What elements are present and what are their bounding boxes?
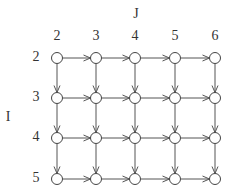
node-2-6 <box>210 53 221 64</box>
node-5-5 <box>170 174 181 185</box>
node-5-4 <box>130 174 141 185</box>
node-5-2 <box>52 174 63 185</box>
node-4-5 <box>170 133 181 144</box>
grid-graph <box>0 0 232 195</box>
node-3-4 <box>130 93 141 104</box>
node-3-5 <box>170 93 181 104</box>
node-4-4 <box>130 133 141 144</box>
node-4-2 <box>52 133 63 144</box>
node-2-4 <box>130 53 141 64</box>
node-2-5 <box>170 53 181 64</box>
node-3-3 <box>91 93 102 104</box>
node-5-3 <box>91 174 102 185</box>
node-4-6 <box>210 133 221 144</box>
node-4-3 <box>91 133 102 144</box>
node-2-2 <box>52 53 63 64</box>
node-2-3 <box>91 53 102 64</box>
node-5-6 <box>210 174 221 185</box>
node-3-2 <box>52 93 63 104</box>
node-3-6 <box>210 93 221 104</box>
